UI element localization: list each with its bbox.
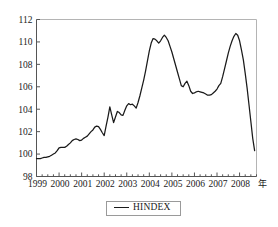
x-tick-label: 2008 [231,179,250,189]
x-tick-label: 2003 [118,179,137,189]
x-axis-ticks [37,173,257,177]
legend-line-swatch [114,207,129,208]
x-tick-label: 2004 [141,179,160,189]
y-tick-label: 102 [18,127,33,137]
x-axis-unit-label-text: 年 [258,178,267,189]
y-tick-label: 104 [18,105,33,115]
y-tick-label: 108 [18,60,33,70]
plot-area: 98100102104106108110112 1999200020012002… [0,0,278,195]
x-tick-label: 2006 [186,179,205,189]
series-line-hindex [37,34,255,159]
legend-label: HINDEX [133,203,171,213]
y-axis-ticks [37,20,41,177]
x-tick-label: 2000 [51,179,70,189]
y-tick-label: 106 [18,82,33,92]
x-tick-label: 2007 [209,179,228,189]
x-tick-label: 2002 [96,179,115,189]
line-chart-svg: 98100102104106108110112 1999200020012002… [0,0,278,195]
y-tick-label: 112 [19,15,33,25]
data-series-group [37,34,255,159]
x-axis-unit-label: 年 [258,178,267,189]
x-tick-label: 2001 [73,179,92,189]
chart-figure: 98100102104106108110112 1999200020012002… [0,0,278,227]
y-axis-tick-labels: 98100102104106108110112 [18,15,33,182]
x-tick-label: 2005 [163,179,182,189]
chart-legend: HINDEX [106,201,181,216]
x-axis-tick-labels: 1999200020012002200320042005200620072008 [28,179,250,189]
x-tick-label: 1999 [28,179,47,189]
plot-frame [37,20,257,177]
y-tick-label: 110 [19,37,33,47]
y-tick-label: 100 [18,149,33,159]
